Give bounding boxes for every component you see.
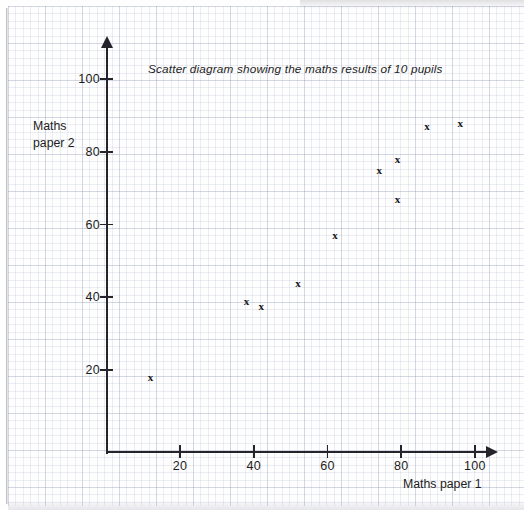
y-axis-tick-label: 60 <box>66 218 100 232</box>
x-axis-tick <box>400 445 402 458</box>
y-axis-title-line1: Maths <box>33 118 75 135</box>
y-axis-tick-label-wrap: 80 <box>52 145 100 159</box>
y-axis-tick-label: 100 <box>66 72 100 86</box>
y-axis-tick-label: 20 <box>66 363 100 377</box>
y-axis-tick-label-wrap: 20 <box>52 363 100 377</box>
data-point-marker: x <box>295 277 301 288</box>
x-axis-tick <box>474 445 476 458</box>
x-axis-line <box>106 451 494 453</box>
y-axis-tick-label: 80 <box>66 145 100 159</box>
data-point-marker: x <box>395 194 401 205</box>
x-axis-tick <box>327 445 329 458</box>
data-point-marker: x <box>332 230 338 241</box>
data-point-marker: x <box>258 301 264 312</box>
x-axis-tick-label: 20 <box>160 459 200 473</box>
y-axis-arrow-icon <box>101 36 113 48</box>
data-point-marker: x <box>395 154 401 165</box>
chart-title: Scatter diagram showing the maths result… <box>148 62 443 76</box>
y-axis-tick-label: 40 <box>66 290 100 304</box>
scatter-chart: Scatter diagram showing the maths result… <box>0 0 524 510</box>
x-axis-tick-label: 40 <box>234 459 274 473</box>
y-axis-tick <box>100 78 113 80</box>
data-point-marker: x <box>458 117 464 128</box>
data-point-marker: x <box>424 121 430 132</box>
x-axis-title: Maths paper 1 <box>403 477 482 491</box>
x-axis-tick-label: 100 <box>455 459 495 473</box>
x-axis-arrow-icon <box>486 446 498 458</box>
y-axis-line <box>106 44 108 454</box>
x-axis-tick <box>253 445 255 458</box>
data-point-marker: x <box>148 372 154 383</box>
data-point-marker: x <box>376 164 382 175</box>
y-axis-tick <box>100 369 113 371</box>
y-axis-tick-label-wrap: 60 <box>52 218 100 232</box>
y-axis-tick <box>100 296 113 298</box>
scanned-worksheet-page: Scatter diagram showing the maths result… <box>0 0 524 510</box>
y-axis-tick <box>100 224 113 226</box>
y-axis-tick-label-wrap: 100 <box>52 72 100 86</box>
x-axis-tick-label: 80 <box>381 459 421 473</box>
y-axis-tick-label-wrap: 40 <box>52 290 100 304</box>
data-point-marker: x <box>244 295 250 306</box>
x-axis-tick-label: 60 <box>308 459 348 473</box>
x-axis-tick <box>179 445 181 458</box>
y-axis-tick <box>100 151 113 153</box>
